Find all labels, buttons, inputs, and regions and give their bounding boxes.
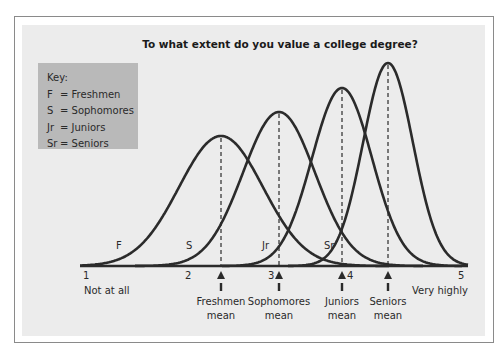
mean-label-sophomores: Sophomoresmean: [248, 295, 310, 323]
x-tick-label-1: 1: [83, 270, 89, 281]
mean-triangle-marker: [384, 271, 392, 279]
mean-label-seniors: Seniorsmean: [369, 295, 406, 323]
curve-label-f: F: [116, 240, 122, 251]
x-axis-low-label: Not at all: [84, 285, 130, 296]
x-tick-label-5: 5: [458, 270, 464, 281]
curve-label-jr: Jr: [262, 240, 269, 251]
x-tick-label-4: 4: [347, 270, 353, 281]
mean-arrow-stem: [387, 283, 389, 291]
curve-freshmen: [80, 136, 389, 266]
mean-triangle-marker: [217, 271, 225, 279]
x-axis-high-label: Very highly: [412, 285, 468, 296]
curve-label-sr: Sr: [324, 240, 334, 251]
mean-arrow-stem: [341, 283, 343, 291]
mean-label-juniors: Juniorsmean: [325, 295, 359, 323]
mean-arrow-stem: [278, 283, 280, 291]
curve-seniors: [288, 63, 468, 266]
mean-triangle-marker: [275, 271, 283, 279]
curve-label-s: S: [186, 240, 192, 251]
mean-label-freshmen: Freshmenmean: [197, 295, 246, 323]
mean-arrow-stem: [220, 283, 222, 291]
x-tick-label-2: 2: [185, 270, 191, 281]
x-tick-label-3: 3: [268, 270, 274, 281]
mean-triangle-marker: [338, 271, 346, 279]
